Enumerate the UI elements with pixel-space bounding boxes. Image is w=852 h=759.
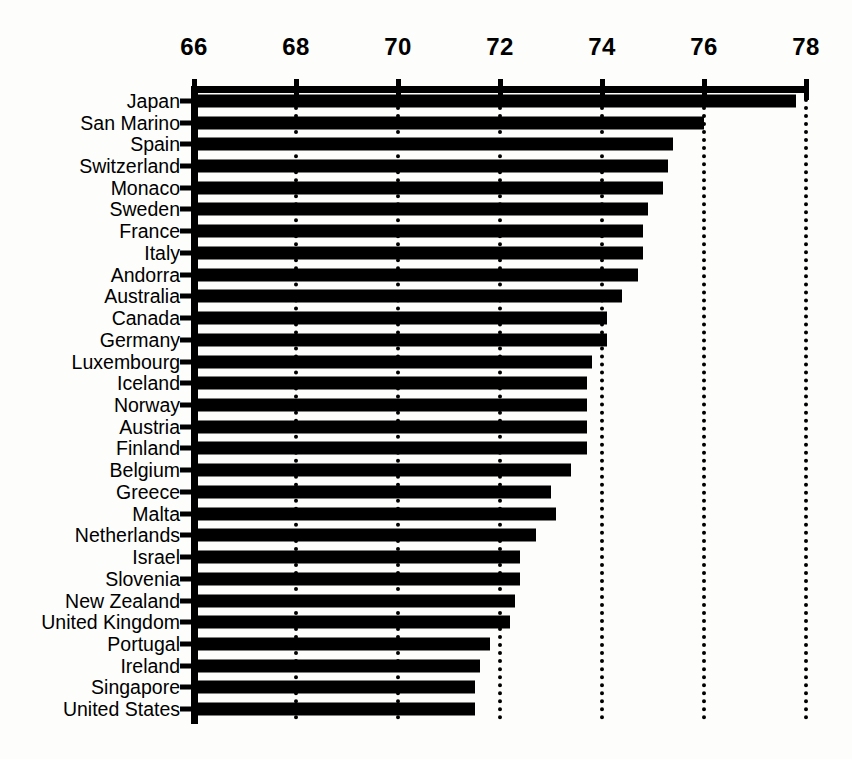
category-label-japan: Japan	[127, 91, 180, 111]
bar-slovenia	[194, 572, 520, 585]
category-label-united-kingdom: United Kingdom	[41, 612, 180, 632]
bar-row: Luxembourg	[0, 351, 852, 373]
category-label-greece: Greece	[116, 482, 180, 502]
bar-row: Italy	[0, 242, 852, 264]
bar-row: United Kingdom	[0, 611, 852, 633]
x-tick-label-72: 72	[486, 33, 514, 61]
bar-row: Ireland	[0, 655, 852, 677]
bar-rows: JapanSan MarinoSpainSwitzerlandMonacoSwe…	[0, 90, 852, 720]
bar-united-states	[194, 703, 475, 716]
category-label-israel: Israel	[132, 547, 180, 567]
bar-row: Netherlands	[0, 524, 852, 546]
bar-row: Belgium	[0, 459, 852, 481]
bar-row: Germany	[0, 329, 852, 351]
bar-ireland	[194, 659, 480, 672]
category-label-monaco: Monaco	[111, 178, 180, 198]
bar-row: Slovenia	[0, 568, 852, 590]
category-label-canada: Canada	[112, 308, 180, 328]
category-label-france: France	[119, 221, 180, 241]
category-label-luxembourg: Luxembourg	[72, 352, 180, 372]
category-label-germany: Germany	[100, 330, 180, 350]
bar-row: Iceland	[0, 372, 852, 394]
category-label-belgium: Belgium	[110, 460, 180, 480]
bar-sweden	[194, 203, 648, 216]
category-label-switzerland: Switzerland	[79, 156, 180, 176]
bar-spain	[194, 138, 673, 151]
bar-row: Malta	[0, 503, 852, 525]
bar-row: Switzerland	[0, 155, 852, 177]
bar-united-kingdom	[194, 616, 510, 629]
category-label-italy: Italy	[144, 243, 180, 263]
x-tick-label-76: 76	[690, 33, 718, 61]
bar-andorra	[194, 268, 638, 281]
bar-row: Canada	[0, 307, 852, 329]
category-label-new-zealand: New Zealand	[65, 591, 180, 611]
category-label-norway: Norway	[114, 395, 180, 415]
bar-switzerland	[194, 160, 668, 173]
x-tick-label-74: 74	[588, 33, 616, 61]
bar-row: Portugal	[0, 633, 852, 655]
category-label-netherlands: Netherlands	[75, 525, 180, 545]
bar-row: San Marino	[0, 112, 852, 134]
bar-norway	[194, 398, 587, 411]
bar-row: Norway	[0, 394, 852, 416]
x-tick-label-68: 68	[282, 33, 310, 61]
bar-portugal	[194, 637, 490, 650]
bar-japan	[194, 94, 796, 107]
bar-germany	[194, 333, 607, 346]
category-label-slovenia: Slovenia	[105, 569, 180, 589]
bar-row: Finland	[0, 438, 852, 460]
category-label-malta: Malta	[132, 504, 180, 524]
category-label-australia: Australia	[104, 286, 180, 306]
category-label-austria: Austria	[119, 417, 180, 437]
category-label-finland: Finland	[116, 438, 180, 458]
category-label-iceland: Iceland	[117, 373, 180, 393]
bar-row: Greece	[0, 481, 852, 503]
bar-austria	[194, 420, 587, 433]
plot-area: JapanSan MarinoSpainSwitzerlandMonacoSwe…	[0, 90, 852, 720]
bar-san-marino	[194, 116, 704, 129]
bar-row: Andorra	[0, 264, 852, 286]
x-tick-label-70: 70	[384, 33, 412, 61]
bar-chart: 66687072747678 JapanSan MarinoSpainSwitz…	[0, 0, 852, 759]
x-tick-label-66: 66	[180, 33, 208, 61]
bar-row: Singapore	[0, 677, 852, 699]
bar-belgium	[194, 464, 571, 477]
bar-row: Sweden	[0, 199, 852, 221]
category-label-spain: Spain	[130, 134, 180, 154]
category-label-united-states: United States	[63, 699, 180, 719]
x-axis-tick-label-row: 66687072747678	[0, 33, 852, 67]
bar-row: New Zealand	[0, 590, 852, 612]
bar-row: France	[0, 220, 852, 242]
bar-new-zealand	[194, 594, 515, 607]
category-label-singapore: Singapore	[91, 677, 180, 697]
x-tick-label-78: 78	[792, 33, 820, 61]
bar-row: Australia	[0, 286, 852, 308]
bar-italy	[194, 246, 643, 259]
category-label-portugal: Portugal	[107, 634, 180, 654]
bar-row: Austria	[0, 416, 852, 438]
bar-monaco	[194, 181, 663, 194]
bar-australia	[194, 290, 622, 303]
category-label-sweden: Sweden	[110, 199, 180, 219]
bar-singapore	[194, 681, 475, 694]
bar-row: Spain	[0, 133, 852, 155]
category-label-ireland: Ireland	[120, 656, 180, 676]
bar-finland	[194, 442, 587, 455]
bar-greece	[194, 485, 551, 498]
bar-canada	[194, 312, 607, 325]
category-label-andorra: Andorra	[111, 265, 180, 285]
bar-row: Monaco	[0, 177, 852, 199]
bar-malta	[194, 507, 556, 520]
bar-israel	[194, 551, 520, 564]
bar-row: Japan	[0, 90, 852, 112]
bar-netherlands	[194, 529, 536, 542]
bar-row: Israel	[0, 546, 852, 568]
category-label-san-marino: San Marino	[80, 113, 180, 133]
bar-iceland	[194, 377, 587, 390]
bar-row: United States	[0, 698, 852, 720]
bar-france	[194, 225, 643, 238]
bar-luxembourg	[194, 355, 592, 368]
